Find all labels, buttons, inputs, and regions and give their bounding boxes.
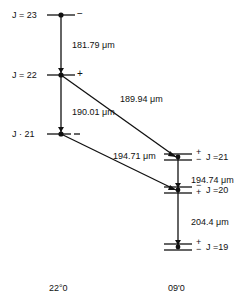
parity-sign: +	[196, 188, 201, 197]
j-label-23: J = 23	[12, 11, 37, 20]
parity-sign: −	[196, 245, 201, 254]
parity-sign: −	[196, 155, 201, 164]
j-label-20: J =20	[206, 186, 228, 195]
right-column-label: 09'0	[168, 284, 185, 293]
j-label-21-right: J =21	[206, 153, 228, 162]
transition-label: 189.94 μm	[120, 95, 163, 104]
transition-label: 190.01 μm	[72, 108, 115, 117]
transition-label: 181.79 μm	[72, 41, 115, 50]
energy-level-diagram	[0, 0, 244, 297]
left-column-label: 22°0	[49, 284, 68, 293]
parity-sign: −	[77, 9, 83, 19]
arrowhead	[58, 68, 64, 73]
transition-194-71	[61, 134, 176, 190]
transition-label: 204.4 μm	[191, 218, 229, 227]
arrowhead	[58, 127, 64, 132]
j-label-21-left: J · 21	[12, 130, 35, 139]
transition-label: 194.71 μm	[113, 152, 156, 161]
transition-label: 194.74 μm	[191, 176, 234, 185]
parity-sign: +	[77, 69, 83, 79]
j-label-19: J =19	[206, 243, 228, 252]
j-label-22: J = 22	[12, 71, 37, 80]
